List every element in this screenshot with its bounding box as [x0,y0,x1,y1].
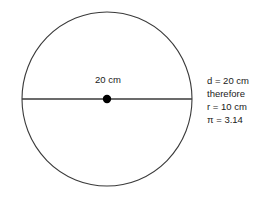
note-line-radius: r = 10 cm [207,100,249,113]
center-point-dot [103,95,111,103]
calculation-notes: d = 20 cm therefore r = 10 cm π = 3.14 [207,74,249,126]
note-line-therefore: therefore [207,87,249,100]
note-line-diameter: d = 20 cm [207,74,249,87]
diagram-canvas: 20 cm d = 20 cm therefore r = 10 cm π = … [0,0,266,197]
diameter-label: 20 cm [78,74,138,86]
note-line-pi: π = 3.14 [207,113,249,126]
